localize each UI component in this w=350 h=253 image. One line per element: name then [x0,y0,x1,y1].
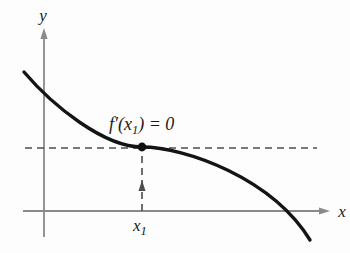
derivative-annotation-pre: f′(x [109,114,132,135]
x1-label-subscript: 1 [141,224,147,238]
x-axis-label: x [337,202,346,221]
y-axis-arrowhead-icon [40,28,47,39]
derivative-annotation-post: ) = 0 [137,114,174,135]
critical-point-dot [138,143,147,152]
y-axis-label: y [37,6,47,25]
up-arrowhead-icon [139,180,146,191]
x1-label: x1 [132,216,147,238]
function-curve [24,72,310,240]
calculus-figure: /* stroke bound below via second attr ho… [0,0,350,253]
derivative-annotation: f′(x1) = 0 [109,114,174,137]
x-axis-arrowhead-icon [319,207,330,214]
figure-canvas: /* stroke bound below via second attr ho… [0,0,350,253]
